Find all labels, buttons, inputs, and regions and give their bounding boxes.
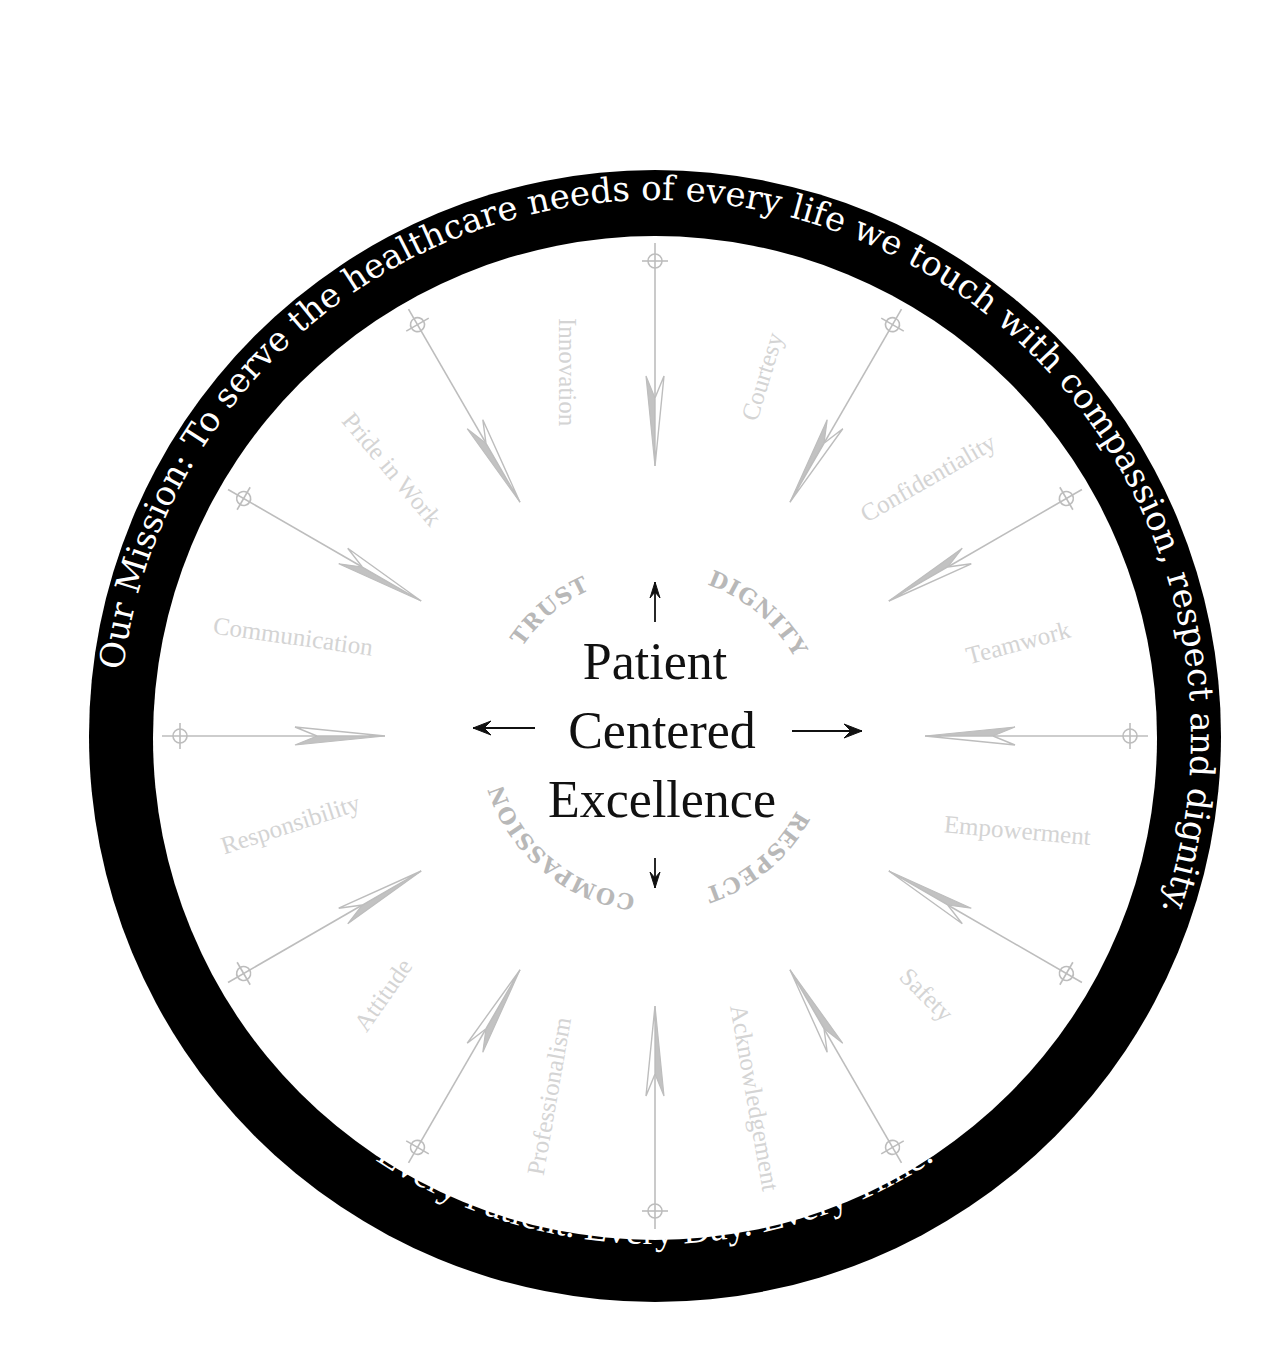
- value-label-innovation: Innovation: [554, 318, 581, 427]
- center-title-line-2: Centered: [568, 702, 756, 759]
- patient-centered-excellence-diagram: Our Mission: To serve the healthcare nee…: [0, 0, 1277, 1356]
- center-title-line-1: Patient: [583, 633, 728, 690]
- center-title-line-3: Excellence: [548, 771, 776, 828]
